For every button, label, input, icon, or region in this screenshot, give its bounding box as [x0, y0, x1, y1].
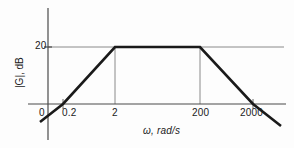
x-tick-label-200: 200 — [192, 108, 209, 118]
x-tick-label-2000: 2000 — [240, 108, 263, 118]
origin-label: 0 — [39, 108, 45, 118]
x-axis-title: ω, rad/s — [143, 126, 180, 136]
y-tick-label-20: 20 — [35, 41, 47, 51]
y-axis-label: |G|, dB — [10, 34, 24, 90]
y-axis-label-text: |G|, dB — [14, 57, 25, 88]
x-tick-label-0.2: 0.2 — [62, 108, 77, 118]
x-tick-label-2: 2 — [112, 108, 118, 118]
bode-magnitude-plot: |G|, dB 20 0 0.2 2 200 2000 ω, rad/s — [0, 0, 294, 148]
